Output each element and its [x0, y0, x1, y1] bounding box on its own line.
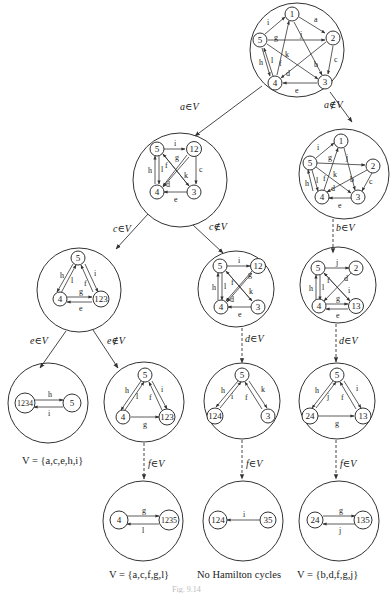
svg-text:124: 124: [211, 515, 225, 525]
edge-label-g: g: [274, 33, 278, 42]
node-4: 4: [268, 76, 282, 90]
svg-text:12: 12: [190, 144, 199, 154]
svg-text:h: h: [148, 166, 152, 175]
svg-text:h: h: [212, 283, 216, 292]
svg-text:h: h: [48, 390, 52, 399]
branch-label-e-in: e∈V: [30, 335, 50, 346]
svg-text:5: 5: [316, 263, 321, 273]
svg-text:g: g: [328, 153, 332, 162]
svg-text:i: i: [94, 269, 97, 278]
svg-text:k: k: [261, 385, 265, 394]
svg-text:4: 4: [273, 78, 278, 88]
svg-text:4: 4: [155, 187, 160, 197]
svg-text:h: h: [315, 386, 319, 395]
edge-label-e: e: [295, 86, 299, 95]
svg-text:b: b: [350, 175, 354, 184]
svg-text:i: i: [348, 286, 351, 295]
svg-text:5: 5: [155, 144, 160, 154]
svg-text:123: 123: [160, 412, 174, 422]
figure-label: Fig. 9.14: [172, 585, 201, 593]
level1-right-graph: i g j k b c h l f d e 1 2 3 4 5: [299, 129, 389, 219]
decision-tree-diagram: a j c b e d g k i h l f 1 2 3 4 5 a∈V a∉…: [0, 0, 390, 593]
svg-text:2: 2: [354, 263, 359, 273]
svg-text:i: i: [243, 510, 246, 519]
svg-text:3: 3: [256, 302, 261, 312]
branch-a-in: [195, 86, 262, 136]
svg-text:i: i: [48, 409, 51, 418]
svg-text:4: 4: [58, 294, 63, 304]
svg-text:l: l: [322, 283, 325, 292]
edge-label-d: d: [286, 69, 290, 78]
level4-c-graph: g j 24 135: [299, 481, 379, 561]
svg-text:4: 4: [320, 192, 325, 202]
branch-label-b-in: b∈V: [336, 222, 356, 233]
svg-text:h: h: [309, 284, 313, 293]
edge-label-k: k: [285, 50, 289, 59]
level2-right-graph: j d h l f i g e 5 2 4 13: [300, 247, 376, 323]
svg-text:5: 5: [258, 35, 263, 45]
svg-text:i: i: [356, 384, 359, 393]
edge-label-h: h: [259, 58, 263, 67]
svg-text:1: 1: [339, 136, 344, 146]
node-2: 2: [326, 31, 340, 45]
branch-label-d-in-right: d∈V: [339, 335, 359, 346]
caption-solution-1: V = {a,c,e,h,i}: [22, 455, 83, 466]
svg-text:5: 5: [76, 253, 81, 263]
svg-text:l: l: [224, 282, 227, 291]
svg-text:j: j: [326, 392, 329, 401]
caption-solution-2: V = {a,c,f,g,l}: [109, 569, 169, 580]
svg-text:g: g: [142, 506, 146, 515]
svg-text:g: g: [248, 270, 252, 279]
svg-text:l: l: [161, 165, 164, 174]
level4-a-graph: g l 4 1235: [103, 481, 183, 561]
branch-label-f-in-1: f∈V: [148, 458, 166, 469]
svg-text:h: h: [125, 386, 129, 395]
node-1: 1: [285, 7, 299, 21]
svg-text:d: d: [331, 184, 335, 193]
svg-text:13: 13: [352, 301, 362, 311]
svg-text:2: 2: [371, 161, 376, 171]
svg-text:h: h: [221, 386, 225, 395]
svg-text:k: k: [333, 170, 337, 179]
edge-label-f: f: [279, 59, 282, 68]
caption-solution-3: V = {b,d,f,g,j}: [297, 569, 358, 580]
branch-label-f-in-2: f∈V: [246, 458, 264, 469]
node-3: 3: [318, 75, 332, 89]
branch-label-a-in: a∈V: [180, 101, 200, 112]
svg-text:g: g: [175, 153, 179, 162]
edge-label-a: a: [314, 15, 318, 24]
svg-text:3: 3: [356, 192, 361, 202]
edge-label-c: c: [334, 55, 338, 64]
svg-text:h: h: [305, 179, 309, 188]
svg-text:i: i: [238, 256, 241, 265]
svg-text:124: 124: [208, 411, 222, 421]
svg-text:13: 13: [359, 411, 369, 421]
level3-b-graph: h l f i g 5 4 123: [104, 362, 184, 442]
svg-text:3: 3: [192, 187, 197, 197]
svg-text:l: l: [316, 176, 319, 185]
edge-label-l: l: [271, 56, 274, 65]
svg-text:g: g: [335, 419, 339, 428]
branch-label-f-in-3: f∈V: [340, 458, 358, 469]
svg-text:d: d: [166, 180, 170, 189]
root-graph: a j c b e d g k i h l f 1 2 3 4 5: [250, 3, 344, 97]
svg-text:e: e: [238, 310, 242, 319]
svg-text:g: g: [339, 506, 343, 515]
svg-text:3: 3: [323, 77, 328, 87]
svg-text:4: 4: [317, 301, 322, 311]
svg-text:e: e: [336, 311, 340, 320]
svg-text:f: f: [84, 279, 87, 288]
svg-text:5: 5: [143, 370, 148, 380]
svg-text:35: 35: [264, 515, 274, 525]
svg-text:j: j: [338, 526, 341, 535]
svg-text:5: 5: [70, 398, 75, 408]
branch-label-a-out: a∉V: [324, 99, 344, 110]
branch-label-d-in-mid: d∈V: [245, 333, 265, 344]
svg-text:135: 135: [356, 515, 370, 525]
node-5: 5: [253, 33, 267, 47]
svg-text:4: 4: [219, 302, 224, 312]
level1-left-graph: i g c h l f k d e 5 12 4 3: [133, 133, 227, 227]
svg-text:j: j: [335, 258, 338, 267]
svg-text:e: e: [79, 304, 83, 313]
svg-text:2: 2: [331, 33, 336, 43]
